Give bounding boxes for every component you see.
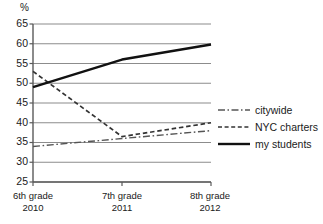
legend-item-citywide[interactable]: citywide bbox=[218, 101, 322, 118]
legend-item-nyc-charters[interactable]: NYC charters bbox=[218, 118, 322, 135]
legend-label-citywide: citywide bbox=[255, 104, 292, 116]
legend-swatch-dashed-icon bbox=[218, 121, 250, 133]
series-line-my-students bbox=[33, 45, 211, 88]
series-group bbox=[33, 45, 211, 147]
legend: citywide NYC charters my students bbox=[218, 101, 322, 152]
legend-swatch-dash-dot-icon bbox=[218, 104, 250, 116]
legend-item-my-students[interactable]: my students bbox=[218, 135, 322, 152]
series-line-nyc-charters bbox=[33, 71, 211, 136]
legend-label-my-students: my students bbox=[255, 138, 312, 150]
legend-swatch-solid-icon bbox=[218, 138, 250, 150]
chart-container: % 65 60 55 50 45 40 35 30 25 6th grade 2… bbox=[0, 0, 323, 224]
legend-label-nyc-charters: NYC charters bbox=[255, 121, 318, 133]
gridlines-group bbox=[33, 24, 211, 182]
series-line-citywide bbox=[33, 131, 211, 147]
